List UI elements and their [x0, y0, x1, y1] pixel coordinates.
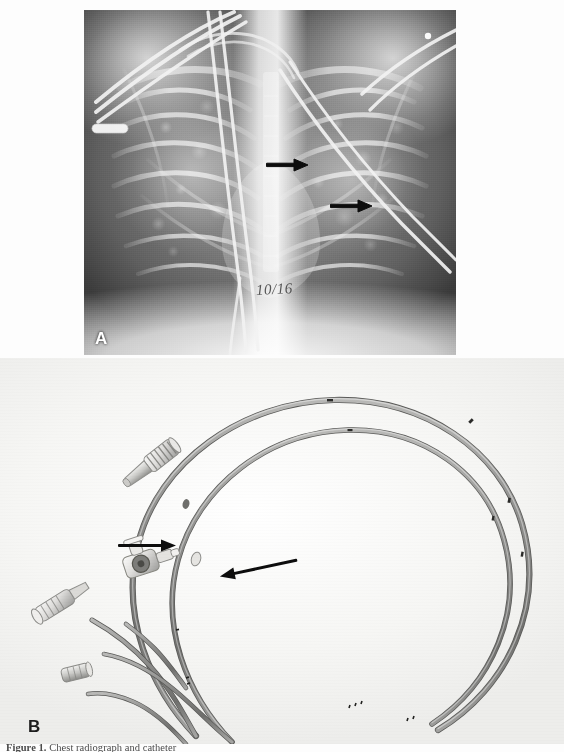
panel-b-catheter-photograph: B [0, 358, 564, 744]
medical-figure: 10/16 A [0, 0, 564, 752]
panel-a-letter: A [95, 330, 108, 347]
figure-caption-text: Chest radiograph and catheter [49, 742, 176, 752]
arrow-upper-icon [266, 155, 308, 175]
arrow-lower-icon [330, 196, 372, 216]
figure-caption-label: Figure 1. [6, 742, 47, 752]
photo-grain [0, 358, 564, 744]
film-grain [84, 10, 456, 355]
figure-caption: Figure 1. Chest radiograph and catheter [6, 742, 558, 752]
handwritten-date-mark: 10/16 [256, 280, 294, 299]
panel-a-chest-radiograph: 10/16 A [84, 10, 456, 355]
panel-b-letter: B [28, 718, 41, 735]
